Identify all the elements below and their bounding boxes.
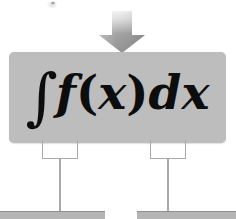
variable-x: x — [98, 65, 126, 120]
down-arrow-icon — [98, 11, 146, 54]
integral-sign: ∫ — [26, 60, 58, 133]
open-paren: ( — [76, 65, 98, 120]
scan-artifact-smudge — [46, 0, 60, 9]
integral-formula: ∫f(x)dx — [26, 66, 210, 128]
left-connector-bracket — [42, 140, 78, 159]
formula-box: ∫f(x)dx — [9, 52, 226, 143]
right-connector-bracket — [150, 140, 186, 159]
function-symbol: f — [56, 65, 76, 120]
right-connector-stem — [167, 158, 169, 212]
left-bottom-box — [0, 211, 105, 219]
close-paren: ) — [126, 65, 148, 120]
differential-variable-x: x — [181, 65, 209, 120]
left-connector-stem — [59, 158, 61, 212]
differential-d: d — [149, 65, 182, 120]
integral-diagram: ∫f(x)dx — [0, 0, 236, 219]
right-bottom-box — [137, 211, 236, 219]
